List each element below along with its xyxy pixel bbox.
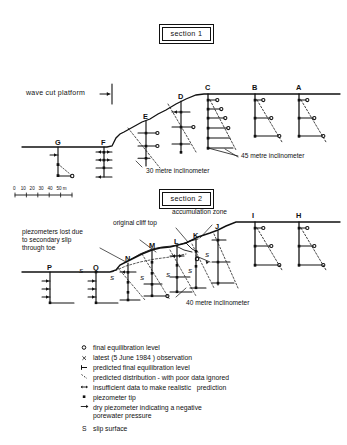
legend-text-final-equilibration: final equilibration level [93,344,160,352]
legend-text-insufficient-data: insufficient data to make realistic pred… [93,384,226,392]
cross-symbol [82,356,86,360]
legend-symbol-slip-surface: S [82,425,87,433]
legend-text-predicted-final: predicted final equilibration level [93,364,190,372]
legend-text-dry-piezometer: dry piezometer indicating a negative por… [93,404,202,420]
legend-text-latest-observation: latest (5 June 1984 ) observation [93,354,192,362]
legend-text-slip-surface: slip surface [93,425,127,433]
legend-text-predicted-distribution: predicted distribution - with poor data … [93,374,229,382]
open-circle-symbol [82,346,86,350]
legend-text-piezometer-tip: piezometer tip [93,394,136,402]
tick-bar-symbol [82,365,88,370]
filled-square-symbol [83,395,86,398]
dashed-line-symbol [82,375,88,379]
geotechnical-cross-section-figure: section 1 section 2 wave cut platform G … [0,0,347,445]
